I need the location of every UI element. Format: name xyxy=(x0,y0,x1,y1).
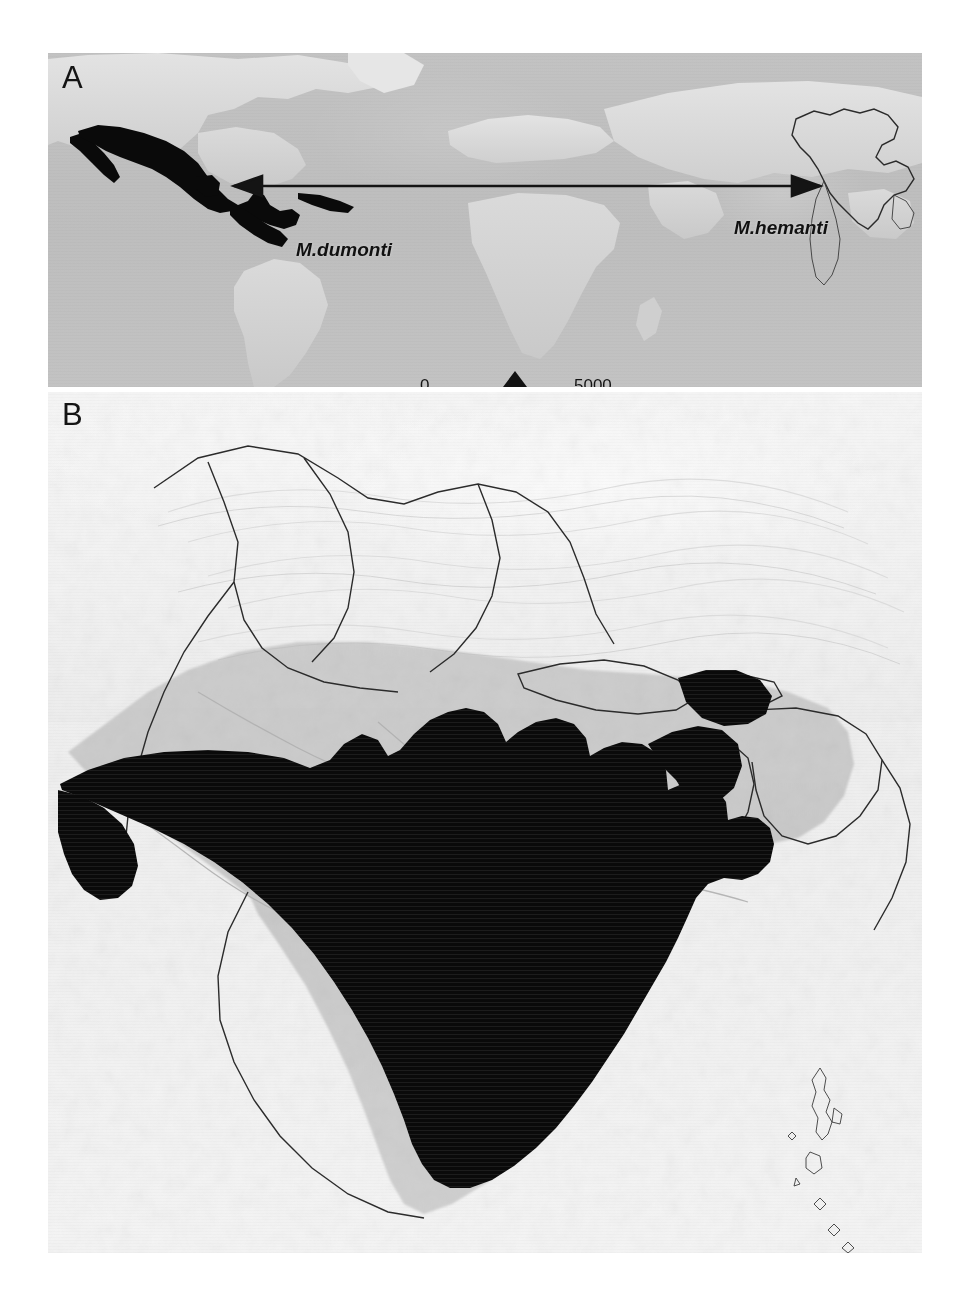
panel-a: M.dumonti M.hemanti 0 5000 Km A xyxy=(48,53,922,387)
panel-b-label: B xyxy=(62,399,83,430)
species-label-dumonti: M.dumonti xyxy=(296,239,392,261)
north-arrow-icon xyxy=(500,371,530,387)
panel-b: B xyxy=(48,392,922,1253)
figure-root: M.dumonti M.hemanti 0 5000 Km A xyxy=(0,0,968,1306)
scalebar: 0 5000 Km xyxy=(378,375,618,387)
scalebar-min: 0 xyxy=(420,376,429,387)
species-label-hemanti: M.hemanti xyxy=(734,217,828,239)
panel-a-label: A xyxy=(62,62,83,93)
scalebar-max: 5000 xyxy=(574,376,612,387)
andaman-nicobar-islands xyxy=(48,392,922,1253)
